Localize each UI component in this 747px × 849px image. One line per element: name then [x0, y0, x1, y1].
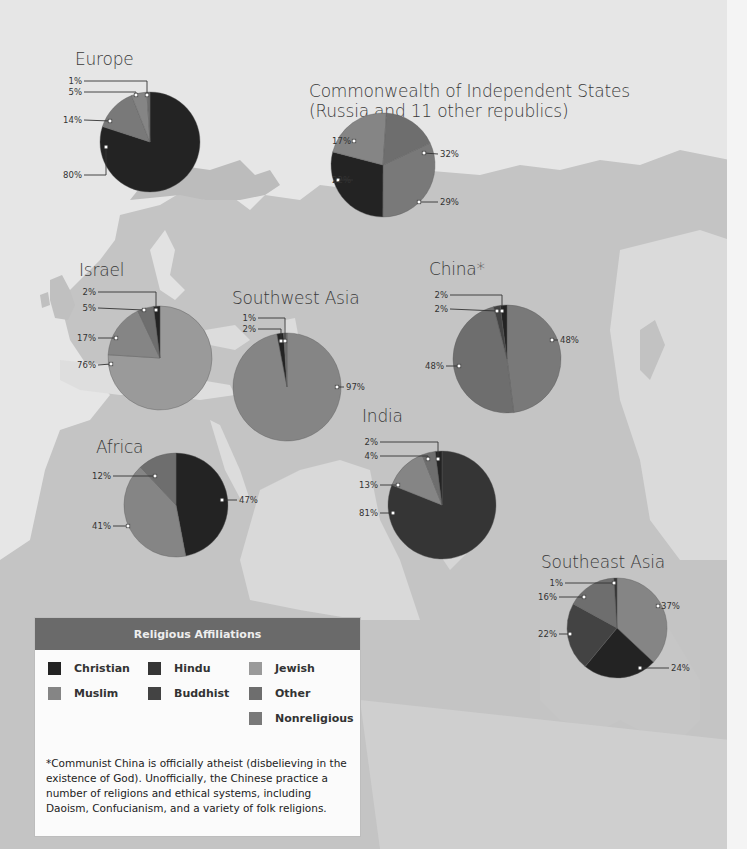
other-swatch	[249, 687, 262, 700]
leader-dot	[391, 511, 395, 515]
leader-dot	[335, 385, 339, 389]
slice-percent-label: 5%	[69, 87, 83, 97]
slice-percent-label: 48%	[425, 361, 444, 371]
leader-dot	[104, 145, 108, 149]
slice-percent-label: 37%	[661, 601, 680, 611]
slice-percent-label: 2%	[83, 287, 97, 297]
leader-dot	[154, 308, 158, 312]
pie-slice-nonreligious	[507, 305, 561, 413]
leader-dot	[612, 581, 616, 585]
legend-item-other: Other	[249, 687, 310, 700]
slice-percent-label: 4%	[365, 451, 379, 461]
slice-percent-label: 22%	[332, 175, 351, 185]
legend-label: Other	[275, 687, 310, 700]
jewish-swatch	[249, 662, 262, 675]
pie-slice-christian	[176, 453, 228, 556]
slice-percent-label: 80%	[63, 170, 82, 180]
nonreligious-swatch	[249, 712, 262, 725]
china-footnote: *Communist China is officially atheist (…	[46, 756, 351, 816]
leader-dot	[582, 595, 586, 599]
leader-dot	[426, 457, 430, 461]
leader-dot	[396, 483, 400, 487]
slice-percent-label: 17%	[332, 136, 351, 146]
buddhist-swatch	[148, 687, 161, 700]
slice-percent-label: 13%	[359, 480, 378, 490]
christian-swatch	[48, 662, 61, 675]
slice-percent-label: 2%	[365, 437, 379, 447]
slice-percent-label: 1%	[69, 76, 83, 86]
leader-dot	[457, 364, 461, 368]
pie-africa: 47%41%12%	[92, 453, 258, 557]
slice-percent-label: 14%	[63, 115, 82, 125]
leader-dot	[114, 336, 118, 340]
slice-percent-label: 2%	[243, 324, 257, 334]
leader-dot	[500, 309, 504, 313]
leader-dot	[279, 339, 283, 343]
leader-dot	[283, 339, 287, 343]
leader-dot	[142, 308, 146, 312]
leader-dot	[550, 338, 554, 342]
slice-percent-label: 1%	[550, 578, 564, 588]
slice-percent-label: 29%	[440, 197, 459, 207]
leader-dot	[568, 632, 572, 636]
leader-dot	[352, 139, 356, 143]
slice-percent-label: 12%	[92, 471, 111, 481]
slice-percent-label: 76%	[77, 360, 96, 370]
pie-southwest-asia: 97%2%1%	[233, 313, 365, 441]
legend-item-christian: Christian	[48, 662, 130, 675]
legend-label: Jewish	[275, 662, 315, 675]
leader-dot	[109, 362, 113, 366]
pie-israel: 76%17%5%2%	[77, 287, 212, 410]
legend-item-jewish: Jewish	[249, 662, 315, 675]
slice-percent-label: 17%	[77, 333, 96, 343]
leader-dot	[495, 309, 499, 313]
pie-india: 81%13%4%2%	[359, 437, 496, 559]
slice-percent-label: 97%	[346, 382, 365, 392]
slice-percent-label: 2%	[435, 290, 449, 300]
legend-label: Buddhist	[174, 687, 229, 700]
legend-title: Religious Affiliations	[35, 618, 360, 650]
leader-line	[84, 92, 136, 95]
leader-dot	[145, 93, 149, 97]
slice-percent-label: 2%	[435, 304, 449, 314]
leader-dot	[656, 604, 660, 608]
slice-percent-label: 1%	[243, 313, 257, 323]
slice-percent-label: 22%	[538, 629, 557, 639]
leader-dot	[126, 524, 130, 528]
leader-dot	[134, 93, 138, 97]
pie-southeast-asia: 37%24%22%16%1%	[538, 578, 690, 678]
legend-label: Muslim	[74, 687, 118, 700]
legend-label: Nonreligious	[275, 712, 354, 725]
slice-percent-label: 32%	[440, 149, 459, 159]
slice-percent-label: 41%	[92, 521, 111, 531]
muslim-swatch	[48, 687, 61, 700]
leader-dot	[153, 474, 157, 478]
legend-label: Hindu	[174, 662, 211, 675]
legend-item-hindu: Hindu	[148, 662, 211, 675]
leader-dot	[638, 666, 642, 670]
slice-percent-label: 5%	[83, 303, 97, 313]
legend-item-muslim: Muslim	[48, 687, 118, 700]
pie-commonwealth-of-independent-states-russia-and-other-republics: 32%29%22%17%	[331, 113, 459, 217]
legend-label: Christian	[74, 662, 130, 675]
leader-dot	[108, 119, 112, 123]
pie-china: 48%48%2%2%	[425, 290, 579, 413]
leader-line	[98, 292, 156, 310]
leader-dot	[422, 151, 426, 155]
leader-dot	[436, 457, 440, 461]
legend-box: Religious Affiliations Christian Muslim …	[35, 618, 360, 836]
pie-europe: 80%14%5%1%	[63, 76, 200, 192]
leader-line	[98, 308, 144, 310]
legend-item-buddhist: Buddhist	[148, 687, 229, 700]
slice-percent-label: 16%	[538, 592, 557, 602]
leader-dot	[417, 200, 421, 204]
slice-percent-label: 48%	[560, 335, 579, 345]
slice-percent-label: 81%	[359, 508, 378, 518]
legend-item-nonreligious: Nonreligious	[249, 712, 354, 725]
slice-percent-label: 24%	[671, 663, 690, 673]
slice-percent-label: 47%	[239, 495, 258, 505]
leader-dot	[220, 498, 224, 502]
hindu-swatch	[148, 662, 161, 675]
